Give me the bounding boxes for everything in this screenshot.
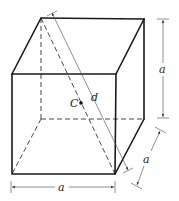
diagonal-label: d (91, 91, 98, 104)
front-face (12, 74, 116, 174)
width-dimension: a (11, 181, 115, 194)
center-label: C (70, 97, 79, 110)
height-label: a (159, 63, 166, 76)
edge-top-left-depth (12, 18, 41, 74)
depth-tick-bottom (131, 183, 142, 189)
edge-top-right-depth (116, 19, 144, 74)
hidden-edge-bottom-left-depth (12, 119, 41, 174)
diagonal-dimension (47, 11, 133, 173)
cube-figure: C d a a a (0, 0, 179, 201)
edge-back-top (41, 18, 144, 19)
hidden-edges (12, 18, 144, 174)
depth-dimension: a (131, 127, 166, 189)
height-dimension: a (157, 19, 169, 118)
depth-tick-top (155, 127, 166, 133)
center-point (79, 101, 83, 105)
depth-line-upper (151, 131, 160, 151)
space-diagonal-dashed (41, 18, 115, 174)
width-label: a (58, 181, 65, 194)
depth-line-lower (137, 166, 144, 185)
diagonal-tick-bottom (123, 168, 133, 173)
diagonal-tick-top (47, 11, 57, 16)
depth-label: a (143, 153, 150, 166)
visible-edges (12, 18, 144, 174)
edge-bottom-right-depth (115, 119, 144, 174)
